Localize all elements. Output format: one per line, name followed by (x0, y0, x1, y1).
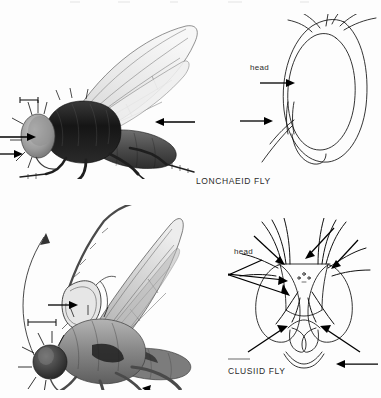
arrow-facial-bristle (228, 260, 262, 276)
head-lonchaeid (10, 100, 56, 169)
top-edge-artifact (0, 0, 381, 8)
scale-bar-clusiid (28, 319, 56, 326)
panel-lonchaeid-habitus (0, 14, 235, 179)
arrow-face-lonchaeid (0, 150, 23, 158)
arrow-mouthparts (336, 360, 378, 368)
head-label-clusiid: head (234, 247, 253, 256)
head-label-lonchaeid: head (250, 63, 269, 72)
panel-clusiid-habitus (0, 205, 240, 390)
arrow-frontal-bristle-upper (254, 236, 285, 265)
arrow-ocellar-bristle (305, 228, 334, 259)
arrow-tarsus-clusiid (142, 385, 172, 390)
caption-lonchaeid: LONCHAEID FLY (196, 176, 271, 186)
arrow-vibrissa-right (320, 325, 360, 352)
scale-bar-lonchaeid (20, 97, 38, 103)
arrow-bristle-lonchaeid-head (240, 117, 273, 125)
caption-clusiid: CLUSIID FLY (228, 366, 285, 376)
arrow-wingbase-lonchaeid (155, 118, 195, 126)
arista-hairs (74, 228, 108, 277)
arrow-eye-lonchaeid-head (260, 79, 295, 87)
signature-artifact (228, 358, 250, 360)
arrow-frontal-bristle-right (331, 240, 358, 269)
arrow-frontal-bristle-middle (228, 274, 288, 285)
bristles-clusiid-head (240, 218, 370, 324)
panel-lonchaeid-head (236, 14, 381, 179)
panel-clusiid-head (228, 218, 381, 378)
figure-plate: head LONCHAEID FLY (0, 0, 381, 398)
arrow-vibrissa-left (248, 325, 288, 352)
